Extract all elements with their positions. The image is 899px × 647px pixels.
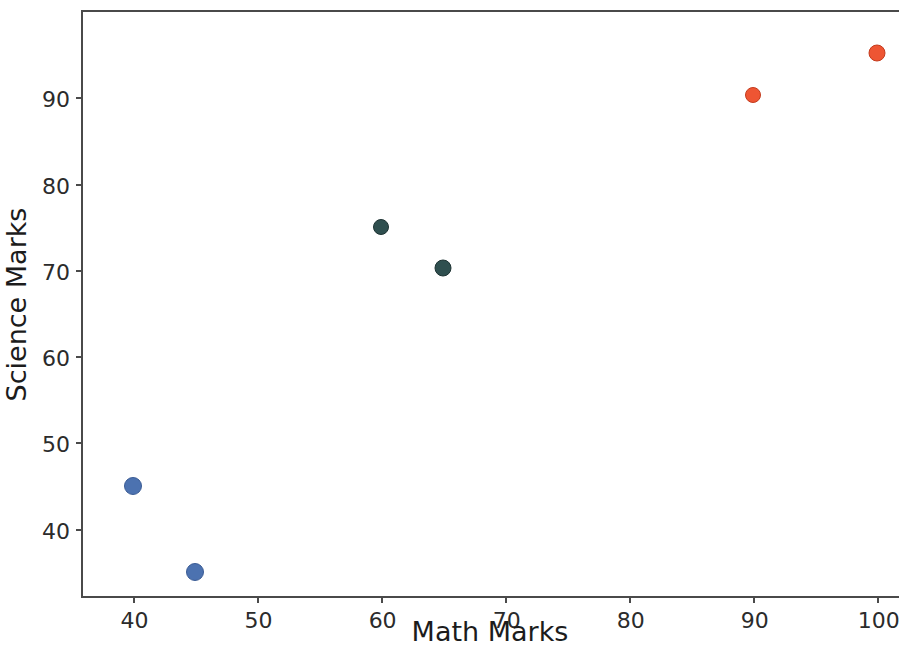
y-axis-tick: 40 (76, 529, 83, 531)
y-axis-tick: 70 (76, 270, 83, 272)
x-axis-tick: 40 (133, 596, 135, 603)
x-axis-tick: 70 (505, 596, 507, 603)
data-point (434, 260, 451, 277)
data-point (373, 219, 389, 235)
x-axis-tick: 80 (629, 596, 631, 603)
y-axis-tick-label: 70 (42, 259, 70, 284)
x-axis-title: Math Marks (81, 616, 899, 647)
y-axis-title: Science Marks (0, 10, 34, 598)
y-axis-tick-label: 90 (42, 87, 70, 112)
x-axis-tick: 60 (381, 596, 383, 603)
data-point (124, 477, 142, 495)
y-axis-tick: 60 (76, 356, 83, 358)
y-axis-tick: 80 (76, 184, 83, 186)
y-axis-tick-label: 80 (42, 173, 70, 198)
y-axis-tick-label: 40 (42, 518, 70, 543)
data-point (186, 563, 204, 581)
y-axis-tick-label: 60 (42, 346, 70, 371)
data-point (745, 87, 761, 103)
x-axis-tick: 100 (877, 596, 879, 603)
y-axis-tick: 90 (76, 97, 83, 99)
y-axis-title-text: Science Marks (2, 207, 33, 401)
x-axis-tick: 90 (753, 596, 755, 603)
plot-area: 405060708090100405060708090 (81, 10, 899, 598)
x-axis-tick: 50 (257, 596, 259, 603)
x-axis-title-text: Math Marks (412, 616, 569, 647)
y-axis-tick-label: 50 (42, 432, 70, 457)
data-point (868, 44, 885, 61)
scatter-plot-figure: 405060708090100405060708090 Math Marks S… (0, 0, 899, 647)
y-axis-tick: 50 (76, 442, 83, 444)
